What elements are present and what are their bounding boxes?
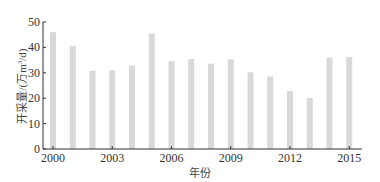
bar-2009 [228, 59, 234, 149]
bar-2007 [188, 59, 194, 149]
bar-2006 [169, 61, 175, 149]
bar-2002 [90, 71, 96, 149]
y-tick-label: 40 [28, 40, 40, 54]
bar-2013 [307, 98, 313, 149]
x-tick-label: 2003 [100, 151, 124, 165]
y-tick-label: 10 [28, 117, 40, 131]
bars [50, 32, 352, 149]
x-tick-label: 2015 [337, 151, 361, 165]
y-tick-label: 20 [28, 91, 40, 105]
bar-2014 [327, 58, 333, 149]
bar-2004 [129, 66, 135, 149]
bar-2003 [109, 70, 115, 149]
y-tick-label: 0 [34, 142, 40, 156]
y-axis-label: 开采量/(万m3/d) [16, 48, 29, 123]
y-tick-label: 30 [28, 66, 40, 80]
bar-2000 [50, 32, 56, 149]
bar-2015 [346, 57, 352, 149]
y-tick-label: 50 [28, 15, 40, 29]
bar-2008 [208, 64, 214, 149]
bar-2001 [70, 46, 76, 149]
x-tick-label: 2009 [219, 151, 243, 165]
bar-2012 [287, 91, 293, 149]
x-tick-label: 2006 [160, 151, 184, 165]
bar-2011 [267, 76, 273, 149]
x-tick-label: 2012 [278, 151, 302, 165]
bar-2010 [248, 72, 254, 149]
bar-chart: 01020304050 200020032006200920122015 开采量… [0, 0, 380, 182]
bar-2005 [149, 33, 155, 149]
x-axis-label: 年份 [189, 166, 211, 179]
x-tick-label: 2000 [41, 151, 65, 165]
